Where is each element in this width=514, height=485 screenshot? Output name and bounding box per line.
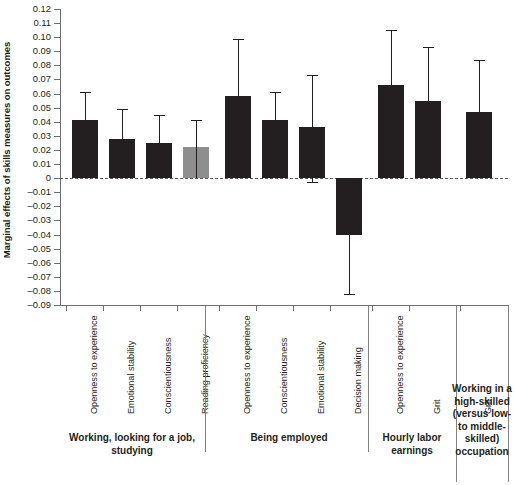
y-axis-tick [54,9,60,10]
group-separator [205,306,206,452]
y-axis-tick [54,220,60,221]
y-axis-tick [54,136,60,137]
x-axis-tick [293,305,294,311]
x-axis-category-label: Openness to experience [396,315,405,414]
y-axis-tick-label: 0.06 [33,89,51,98]
y-axis-tick-label: 0.03 [33,131,51,140]
error-bar-cap [307,75,318,76]
x-axis-tick [177,305,178,311]
y-axis-tick [54,277,60,278]
y-axis-tick [54,150,60,151]
x-axis-tick [103,305,104,311]
x-axis-tick [460,305,461,311]
error-bar [238,39,239,179]
x-axis-category-label: Emotional stability [127,341,136,414]
error-bar-cap [307,182,318,183]
x-axis-tick [219,305,220,311]
error-bar [196,120,197,178]
x-axis-tick [409,305,410,311]
error-bar-cap [474,60,485,61]
y-axis-tick [54,79,60,80]
group-caption: Working, looking for a job, studying [62,432,202,457]
y-axis-tick [54,65,60,66]
x-axis-category-label: Openness to experience [243,315,252,414]
y-axis-tick-label: 0.11 [33,18,51,27]
x-axis-tick [372,305,373,311]
y-axis-tick [54,122,60,123]
y-axis-title: Marginal effects of skills measures on o… [0,0,16,300]
error-bar [85,92,86,178]
y-axis-tick [54,249,60,250]
error-bar-cap [344,294,355,295]
y-axis-tick-label: 0.02 [33,145,51,154]
error-bar-cap [154,115,165,116]
x-axis-line [60,305,509,306]
y-axis-tick [54,235,60,236]
y-axis-tick-label: 0.09 [33,47,51,56]
y-axis-tick [54,51,60,52]
error-bar-cap [386,30,397,31]
y-axis-tick [54,305,60,306]
y-axis-tick-label: 0.05 [33,103,51,112]
y-axis-tick-label: 0.04 [33,117,51,126]
y-axis-tick [54,37,60,38]
x-axis-category-label: Emotional stability [317,341,326,414]
x-axis-category-label: Decision making [354,347,363,414]
y-axis-tick [54,94,60,95]
x-axis-tick [256,305,257,311]
x-axis-category-label: Grit [433,399,442,414]
error-bar [391,30,392,178]
error-bar [428,47,429,178]
y-axis-tick-label: –0.09 [28,300,51,309]
y-axis-tick-label: –0.05 [28,244,51,253]
y-axis-tick-label: 0.08 [33,61,51,70]
error-bar [275,92,276,178]
y-axis-tick-label: –0.03 [28,216,51,225]
y-axis-tick-label: 0.10 [33,32,51,41]
x-axis-category-label: Conscientiousness [164,338,173,414]
error-bar [479,60,480,178]
error-bar-cap [80,92,91,93]
y-axis-tick [54,164,60,165]
group-caption: Working in a high-skilled (versus low- t… [452,383,512,458]
y-axis-tick [54,263,60,264]
x-axis-tick [330,305,331,311]
y-axis-tick-label: –0.07 [28,272,51,281]
error-bar-cap [423,47,434,48]
zero-reference-line [60,178,508,179]
error-bar-cap [233,39,244,40]
group-caption: Hourly labor earnings [372,432,452,457]
y-axis-tick [54,192,60,193]
error-bar [349,180,350,294]
y-axis-tick [54,206,60,207]
error-bar-cap [344,180,355,181]
chart-figure: Marginal effects of skills measures on o… [0,0,514,485]
error-bar-cap [191,120,202,121]
group-separator [368,306,369,452]
y-axis-tick [54,291,60,292]
y-axis-tick [54,108,60,109]
group-caption: Being employed [214,432,364,445]
error-bar [122,109,123,178]
y-axis-tick-label: 0.01 [33,159,51,168]
error-bar-cap [117,109,128,110]
x-axis-category-label: Conscientiousness [280,338,289,414]
x-axis-tick [140,305,141,311]
y-axis-tick-label: –0.01 [28,188,51,197]
error-bar-cap [270,92,281,93]
y-axis-tick-label: 0.12 [33,4,51,13]
y-axis-tick-label: 0 [46,173,51,182]
plot-area: 0.120.110.100.090.080.070.060.050.040.03… [60,9,508,305]
y-axis-tick-label: –0.04 [28,230,51,239]
x-axis-category-label: Openness to experience [90,315,99,414]
y-axis-tick-label: –0.08 [28,286,51,295]
y-axis-tick [54,23,60,24]
error-bar [159,115,160,178]
y-axis-tick-label: 0.07 [33,75,51,84]
y-axis-tick-label: –0.06 [28,258,51,267]
error-bar [312,75,313,182]
y-axis-tick-label: –0.02 [28,202,51,211]
x-axis-tick [66,305,67,311]
